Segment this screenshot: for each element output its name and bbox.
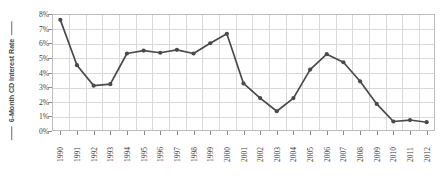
data-point-marker: 2002: 2.25% <box>258 96 262 100</box>
data-point-marker: 2003: 1.35% <box>275 109 279 113</box>
data-point-marker: 1992: 3.1% <box>92 84 96 88</box>
data-point-marker: 1990: 7.6% <box>58 18 62 22</box>
data-point-marker: 1999: 6% <box>208 41 212 45</box>
x-axis-tick-label: 1999 <box>204 133 216 173</box>
y-axis-title: 6-Month CD Interest Rate <box>8 20 17 139</box>
x-axis-tick-label: 1992 <box>88 133 100 173</box>
x-axis-tick-label-text: 1999 <box>206 141 215 169</box>
x-axis-tick-label-text: 2004 <box>289 141 298 169</box>
data-point-marker: 2005: 4.2% <box>308 67 312 71</box>
x-axis-tick-label-text: 2005 <box>306 141 315 169</box>
data-point-marker: 2004: 2.25% <box>291 96 295 100</box>
x-axis-tick-label: 2006 <box>321 133 333 173</box>
x-axis-tick-label-text: 2009 <box>372 141 381 169</box>
x-axis-tick-label-text: 1998 <box>189 141 198 169</box>
line-chart: 6-Month CD Interest Rate 0%1%2%3%4%5%6%7… <box>0 0 445 186</box>
x-axis-tick-label: 1996 <box>154 133 166 173</box>
x-axis-tick-label: 1993 <box>104 133 116 173</box>
x-axis-tick-label: 1994 <box>121 133 133 173</box>
x-axis-tick-label-text: 1990 <box>56 141 65 169</box>
data-point-marker: 2011: 0.75% <box>408 118 412 122</box>
x-axis-tick-label: 1997 <box>171 133 183 173</box>
y-axis-tick-mark <box>48 131 52 132</box>
x-axis-tick-label: 2002 <box>254 133 266 173</box>
x-axis-tick-label-text: 1994 <box>122 141 131 169</box>
x-axis-tick-label: 2005 <box>304 133 316 173</box>
x-axis-tick-label: 2000 <box>221 133 233 173</box>
x-axis-tick-label: 2012 <box>421 133 433 173</box>
x-axis-tick-label-text: 1992 <box>89 141 98 169</box>
data-point-marker: 1994: 5.3% <box>125 51 129 55</box>
data-point-marker: 1991: 4.5% <box>75 63 79 67</box>
x-axis-tick-label: 1995 <box>138 133 150 173</box>
series-line <box>60 20 426 122</box>
data-point-marker: 1995: 5.5% <box>141 48 145 52</box>
x-axis-tick-label-text: 2002 <box>256 141 265 169</box>
y-axis-title-leader-dash-right <box>12 20 13 34</box>
x-axis-tick-label-text: 1991 <box>72 141 81 169</box>
x-axis-tick-label: 2011 <box>404 133 416 173</box>
data-point-marker: 2000: 6.65% <box>225 32 229 36</box>
data-point-marker: 2001: 3.25% <box>241 81 245 85</box>
data-series-layer: 1990: 7.6%1991: 4.5%1992: 3.1%1993: 3.2%… <box>52 14 435 131</box>
x-axis-tick-label-text: 1995 <box>139 141 148 169</box>
data-point-marker: 2007: 4.7% <box>341 60 345 64</box>
data-point-marker: 1998: 5.3% <box>191 51 195 55</box>
x-axis-tick-label-text: 2003 <box>272 141 281 169</box>
x-axis-tick-label: 2007 <box>337 133 349 173</box>
x-axis-tick-label: 2010 <box>387 133 399 173</box>
x-axis-tick-label-text: 1997 <box>172 141 181 169</box>
x-axis-tick-label-text: 2001 <box>239 141 248 169</box>
x-axis-tick-label: 2008 <box>354 133 366 173</box>
x-axis-tick-label-text: 2008 <box>356 141 365 169</box>
x-axis-tick-label: 2004 <box>287 133 299 173</box>
x-axis-tick-label: 2001 <box>238 133 250 173</box>
x-axis-tick-label-text: 2011 <box>406 141 415 169</box>
data-point-marker: 1997: 5.55% <box>175 48 179 52</box>
x-axis-tick-label-text: 2000 <box>222 141 231 169</box>
x-axis-tick-label-text: 2012 <box>422 141 431 169</box>
x-axis-tick-label: 1991 <box>71 133 83 173</box>
x-axis-tick-label-text: 1996 <box>156 141 165 169</box>
data-point-marker: 2006: 5.25% <box>325 52 329 56</box>
data-point-marker: 2008: 3.4% <box>358 79 362 83</box>
x-axis-tick-label-text: 1993 <box>106 141 115 169</box>
x-axis-tick-label: 1990 <box>54 133 66 173</box>
x-axis-tick-label-text: 2007 <box>339 141 348 169</box>
x-axis-tick-label-text: 2010 <box>389 141 398 169</box>
data-point-marker: 1996: 5.35% <box>158 51 162 55</box>
data-point-marker: 2009: 1.85% <box>375 102 379 106</box>
data-point-marker: 1993: 3.2% <box>108 82 112 86</box>
x-axis-tick-label-text: 2006 <box>322 141 331 169</box>
y-axis-title-text: 6-Month CD Interest Rate <box>8 38 17 121</box>
x-axis: 1990199119921993199419951996199719981999… <box>0 133 445 186</box>
data-point-marker: 2010: 0.65% <box>391 119 395 123</box>
data-point-marker: 2012: 0.6% <box>425 120 429 124</box>
x-axis-tick-label: 2009 <box>371 133 383 173</box>
x-axis-tick-label: 1998 <box>188 133 200 173</box>
x-axis-tick-label: 2003 <box>271 133 283 173</box>
